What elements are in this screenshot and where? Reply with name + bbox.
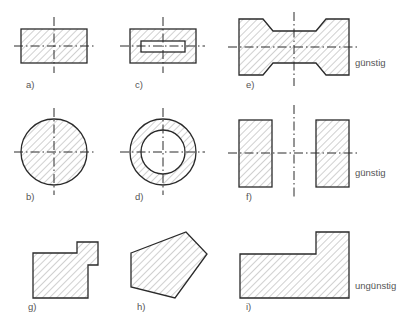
figure-d: d) xyxy=(120,108,205,202)
figure-a: a) xyxy=(14,17,96,90)
rating-row-1: günstig xyxy=(355,57,386,68)
cross-section-diagram: a) c) e) günstig b) d) f) günsti xyxy=(0,0,413,325)
label-e: e) xyxy=(246,79,254,90)
stepped-polygon-section xyxy=(33,242,98,298)
figure-f: f) günstig xyxy=(228,105,386,202)
figure-e: e) günstig xyxy=(228,12,386,90)
label-h: h) xyxy=(137,301,145,312)
rating-row-2: günstig xyxy=(355,167,386,178)
figure-b: b) xyxy=(14,108,96,202)
figure-i: i) ungünstig xyxy=(240,232,396,312)
label-c: c) xyxy=(135,79,143,90)
figure-g: g) xyxy=(28,242,98,312)
label-a: a) xyxy=(26,79,34,90)
label-g: g) xyxy=(28,301,36,312)
label-i: i) xyxy=(246,301,251,312)
figure-h: h) xyxy=(131,232,207,312)
figure-c: c) xyxy=(120,17,205,90)
label-b: b) xyxy=(26,191,34,202)
label-f: f) xyxy=(246,191,252,202)
pentagon-section xyxy=(131,232,207,298)
l-shape-section xyxy=(240,232,349,298)
rating-row-3: ungünstig xyxy=(355,280,396,291)
label-d: d) xyxy=(135,191,143,202)
